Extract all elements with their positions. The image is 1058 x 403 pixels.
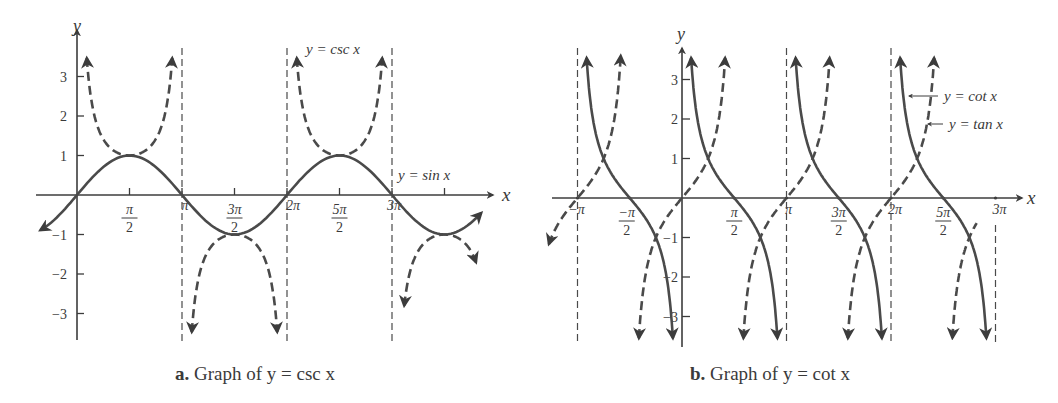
svg-text:π: π [731, 205, 739, 220]
svg-text:3π: 3π [991, 202, 1007, 217]
y-tick-label: −2 [52, 267, 67, 282]
svg-text:2: 2 [623, 223, 630, 238]
x-tick-3pi-over-2: 3π2 [226, 202, 242, 235]
svg-text:3π: 3π [226, 202, 242, 217]
y-tick-label: 1 [60, 149, 67, 164]
chart-cot: xy−3−2−1123−π−π2π2π3π22π5π23πy = cot xy … [549, 24, 1036, 384]
csc-branch [192, 235, 277, 333]
svg-text:2: 2 [940, 223, 947, 238]
label-cot: y = cot x [942, 88, 997, 104]
x-tick-neg-pi-over-2: −π2 [619, 205, 636, 238]
svg-text:2: 2 [336, 220, 343, 235]
svg-text:2: 2 [126, 220, 133, 235]
y-axis-label: y [71, 16, 81, 36]
svg-text:2π: 2π [888, 202, 903, 217]
label-csc: y = csc x [304, 41, 360, 57]
x-tick-3pi: 3π [991, 202, 1007, 217]
x-tick-2pi: 2π [888, 202, 903, 217]
y-tick-label: 3 [60, 70, 67, 85]
x-tick-3pi-over-2: 3π2 [831, 205, 847, 238]
svg-text:5π: 5π [332, 202, 347, 217]
label-sin: y = sin x [396, 167, 451, 183]
y-tick-label: 2 [671, 112, 678, 127]
x-tick-pi-over-2: π2 [726, 205, 742, 238]
y-tick-label: 1 [671, 152, 678, 167]
x-axis-label: x [1026, 187, 1036, 208]
tan-branch [952, 223, 976, 338]
x-tick-5pi-over-2: 5π2 [332, 202, 348, 235]
y-tick-label: −1 [663, 231, 678, 246]
csc-branch [404, 235, 476, 306]
x-tick-2pi: 2π [286, 198, 301, 213]
x-tick-pi-over-2: π2 [122, 202, 138, 235]
svg-text:3π: 3π [831, 205, 847, 220]
svg-text:π: π [126, 202, 134, 217]
label-tan: y = tan x [947, 116, 1003, 132]
y-tick-label: −3 [52, 307, 67, 322]
csc-branch [87, 58, 172, 156]
svg-text:5π: 5π [936, 205, 951, 220]
y-tick-label: 2 [60, 109, 67, 124]
chart-csc: xy−3−2−1123π2π3π22π5π23πy = csc xy = sin… [36, 16, 511, 384]
caption-b: b. Graph of y = cot x [690, 363, 851, 384]
caption-a: a. Graph of y = csc x [175, 363, 336, 384]
y-axis-label: y [675, 24, 685, 44]
tan-branch [549, 56, 621, 244]
y-tick-label: −1 [52, 228, 67, 243]
svg-text:2: 2 [835, 223, 842, 238]
svg-text:2π: 2π [286, 198, 301, 213]
svg-text:2: 2 [231, 220, 238, 235]
svg-text:−π: −π [619, 205, 636, 220]
y-tick-label: 3 [671, 73, 678, 88]
x-tick-5pi-over-2: 5π2 [935, 205, 951, 238]
svg-text:2: 2 [731, 223, 738, 238]
trig-graphs: xy−3−2−1123π2π3π22π5π23πy = csc xy = sin… [0, 0, 1058, 403]
csc-branch [297, 58, 382, 156]
x-axis-label: x [501, 184, 511, 205]
